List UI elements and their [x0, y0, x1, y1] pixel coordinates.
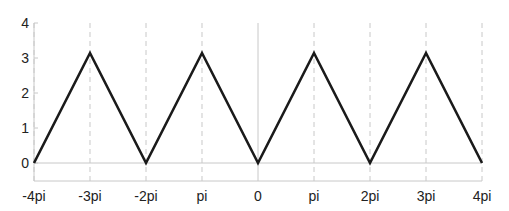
- x-tick-labels: -4pi-3pi-2pipi0pi2pi3pi4pi: [22, 188, 491, 204]
- x-tick-label: 3pi: [417, 188, 436, 204]
- y-tick-labels: 01234: [21, 15, 29, 171]
- x-tick-label: -3pi: [78, 188, 101, 204]
- grid-lines: [34, 23, 482, 181]
- y-tick-label: 1: [21, 120, 29, 136]
- triangle-wave-chart: 01234 -4pi-3pi-2pipi0pi2pi3pi4pi: [0, 0, 509, 211]
- x-tick-label: -2pi: [134, 188, 157, 204]
- x-tick-label: 2pi: [361, 188, 380, 204]
- y-tick-label: 0: [21, 155, 29, 171]
- x-tick-label: 4pi: [473, 188, 492, 204]
- x-tick-label: -4pi: [22, 188, 45, 204]
- y-tick-label: 4: [21, 15, 29, 31]
- y-tick-label: 2: [21, 85, 29, 101]
- x-tick-label: 0: [254, 188, 262, 204]
- x-tick-label: pi: [309, 188, 320, 204]
- x-tick-label: pi: [197, 188, 208, 204]
- y-tick-label: 3: [21, 50, 29, 66]
